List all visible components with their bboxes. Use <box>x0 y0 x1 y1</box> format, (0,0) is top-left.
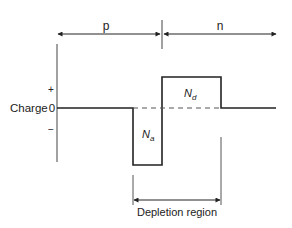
n-region-label: n <box>217 19 224 33</box>
pn-junction-diagram: p n + Charge 0 − Na Nd Depletion region <box>0 0 292 228</box>
acceptor-charge-label: Na <box>142 128 155 143</box>
charge-axis-label: Charge <box>10 102 48 114</box>
depletion-region-label: Depletion region <box>137 206 217 218</box>
plus-label: + <box>48 84 54 95</box>
donor-charge-label: Nd <box>184 87 197 102</box>
p-region-label: p <box>103 19 110 33</box>
zero-label: 0 <box>49 102 55 114</box>
minus-label: − <box>48 124 54 135</box>
charge-profile-line <box>57 77 276 165</box>
